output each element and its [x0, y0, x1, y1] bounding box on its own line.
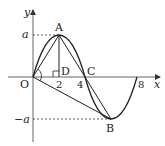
x-tick-4: 4 — [77, 79, 83, 90]
y-tick-a: a — [22, 28, 29, 41]
x-tick-2: 2 — [56, 79, 62, 90]
angle-mark-o — [38, 69, 41, 81]
point-C-label: C — [87, 65, 95, 78]
segment-OB — [33, 77, 111, 119]
origin-label: O — [20, 78, 29, 91]
point-D-label: D — [61, 65, 70, 78]
point-A-label: A — [54, 21, 64, 34]
x-tick-8: 8 — [138, 79, 144, 90]
point-B-label: B — [106, 122, 114, 135]
x-axis-label: x — [154, 78, 161, 91]
y-axis-label: y — [23, 6, 31, 19]
right-angle-mark — [53, 71, 59, 77]
y-tick-neg-a: −a — [14, 113, 30, 126]
function-diagram: y x O a −a 2 4 8 A D C B — [0, 0, 165, 146]
